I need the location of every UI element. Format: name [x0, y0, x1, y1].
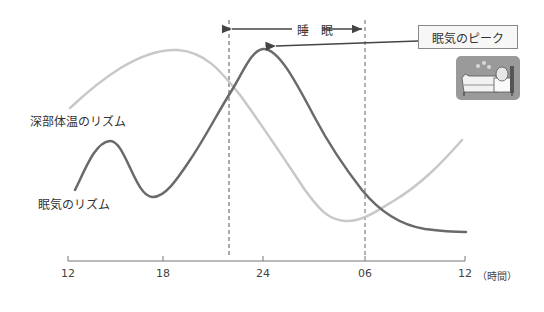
body-temp-label: 深部体温のリズム — [30, 112, 126, 129]
body-temp-curve — [70, 50, 462, 221]
sleeping-person-icon — [456, 56, 520, 100]
x-tick-label: 12 — [458, 267, 472, 280]
x-tick-label: 24 — [256, 267, 270, 280]
x-tick-label: 06 — [358, 267, 372, 280]
x-tick-label: 18 — [156, 267, 170, 280]
peak-arrow — [276, 41, 418, 46]
sleep-period-label: 睡 眠 — [297, 21, 337, 38]
peak-callout-box: 眠気のピーク — [418, 25, 518, 49]
peak-callout-label: 眠気のピーク — [432, 29, 504, 46]
sleepiness-label: 眠気のリズム — [38, 195, 110, 212]
x-tick-label: 12 — [61, 267, 75, 280]
x-axis-unit-label: （時間） — [477, 268, 517, 283]
